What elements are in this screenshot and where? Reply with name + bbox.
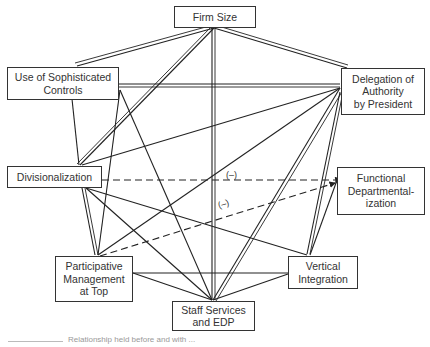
node-vertical-label: Vertical Integration <box>298 260 348 285</box>
node-delegation-label: Delegation of Authority by President <box>352 73 414 111</box>
node-firm-size: Firm Size <box>174 6 256 28</box>
edge-delegation-participative <box>98 88 340 255</box>
legend-line-sample <box>8 341 63 342</box>
edge-controls-staff <box>120 90 212 300</box>
node-delegation: Delegation of Authority by President <box>341 68 425 115</box>
node-participative-label: Participative Management at Top <box>63 260 124 298</box>
legend-caption-text: Relationship held before and with ... <box>68 336 195 344</box>
edge-participative-functional <box>100 183 335 256</box>
edge-participative-staff <box>133 273 212 300</box>
node-divisionalization-label: Divisionalization <box>17 171 92 184</box>
edge-firmsize-delegation <box>214 25 348 68</box>
edge-controls-divisionalization <box>72 99 79 165</box>
node-firm-size-label: Firm Size <box>193 11 237 24</box>
edge-divisionalization-participative <box>82 188 98 255</box>
relationship-diagram: (–) (–) Firm Size Use of Sophisticated C… <box>0 0 430 347</box>
edge-controls-delegation <box>119 84 340 87</box>
node-functional: Functional Departmental- ization <box>337 167 425 215</box>
edge-label-part-func: (–) <box>217 197 230 210</box>
node-functional-label: Functional Departmental- ization <box>348 172 415 210</box>
node-participative: Participative Management at Top <box>55 256 133 302</box>
edge-firmsize-staff <box>212 28 215 300</box>
node-staff-label: Staff Services and EDP <box>181 304 246 329</box>
node-sophisticated-controls-label: Use of Sophisticated Controls <box>15 71 111 96</box>
node-vertical: Vertical Integration <box>288 256 358 289</box>
edge-label-div-func: (–) <box>226 170 237 180</box>
legend-caption: Relationship held before and with ... <box>0 336 430 347</box>
node-sophisticated-controls: Use of Sophisticated Controls <box>7 67 119 100</box>
node-staff: Staff Services and EDP <box>172 301 255 331</box>
node-divisionalization: Divisionalization <box>7 166 102 188</box>
